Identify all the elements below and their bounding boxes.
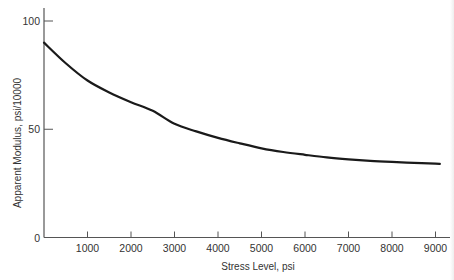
y-axis-label: Apparent Modulus, psi/10000 [12,78,23,209]
x-ticks: 100020003000400050006000700080009000 [76,232,448,254]
x-tick-label: 5000 [250,242,274,254]
y-tick-label: 50 [28,123,40,135]
x-tick-label: 4000 [206,242,230,254]
y-axis: 050100 Apparent Modulus, psi/10000 [12,8,53,244]
x-tick-label: 9000 [424,242,448,254]
data-line [44,43,440,164]
x-tick-label: 6000 [293,242,317,254]
plot-area [44,43,440,164]
x-tick-label: 7000 [337,242,361,254]
x-tick-label: 8000 [380,242,404,254]
line-chart: 050100 Apparent Modulus, psi/10000 10002… [0,0,454,280]
x-tick-label: 2000 [119,242,143,254]
x-axis: 100020003000400050006000700080009000 Str… [44,232,452,273]
x-tick-label: 3000 [163,242,187,254]
x-axis-label: Stress Level, psi [221,261,294,272]
y-tick-label: 0 [34,232,40,244]
y-ticks: 050100 [22,15,53,244]
page-edge-shadow [450,0,454,280]
y-tick-label: 100 [22,15,40,27]
x-tick-label: 1000 [76,242,100,254]
